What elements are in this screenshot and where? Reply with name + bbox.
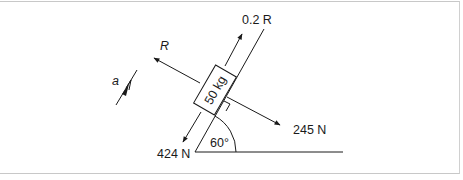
reaction-arrow: [154, 58, 200, 83]
acceleration-arrow: [116, 70, 137, 105]
weight-parallel-label: 424 N: [157, 147, 190, 161]
reaction-label: R: [160, 39, 169, 53]
friction-label: 0.2 R: [242, 13, 272, 27]
friction-arrow: [225, 34, 242, 66]
angle-label: 60°: [210, 136, 229, 150]
free-body-diagram: 60° 50 kg 0.2 R R 424 N 245 N a: [0, 0, 463, 180]
right-angle-marker: [224, 101, 230, 111]
weight-normal-arrow: [227, 97, 280, 125]
weight-normal-label: 245 N: [293, 123, 326, 137]
acceleration-label: a: [112, 74, 119, 88]
weight-parallel-arrow: [183, 112, 201, 142]
